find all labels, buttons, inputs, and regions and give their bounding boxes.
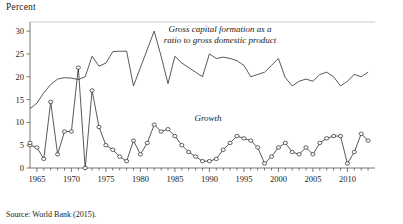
x-axis-tick-label: 1990	[194, 174, 224, 184]
x-axis-tick-label: 2000	[263, 174, 293, 184]
y-axis-tick-label: 20	[6, 72, 24, 82]
annotation-gcf: Gross capital formation as a ratio to gr…	[140, 24, 300, 46]
annotation-gcf-line2: ratio to gross domestic product	[140, 35, 300, 46]
y-axis-tick-label: 0	[6, 163, 24, 173]
annotation-growth: Growth	[178, 113, 238, 124]
figure-container: Percent Gross capital formation as a rat…	[0, 0, 403, 224]
y-axis-tick-label: 5	[6, 140, 24, 150]
source-note: Source: World Bank (2015).	[6, 210, 96, 219]
x-axis-tick-label: 1980	[125, 174, 155, 184]
y-axis-tick-label: 10	[6, 117, 24, 127]
y-axis-tick-label: 25	[6, 49, 24, 59]
y-axis-tick-label: 30	[6, 26, 24, 36]
x-axis-tick-label: 1965	[22, 174, 52, 184]
x-axis-tick-label: 1985	[160, 174, 190, 184]
y-axis-unit-label: Percent	[6, 2, 36, 12]
y-axis-tick-label: 15	[6, 95, 24, 105]
x-axis-tick-label: 1975	[91, 174, 121, 184]
x-axis-tick-label: 2005	[298, 174, 328, 184]
x-axis-tick-label: 2010	[332, 174, 362, 184]
x-axis-tick-label: 1995	[229, 174, 259, 184]
annotation-gcf-line1: Gross capital formation as a	[140, 24, 300, 35]
x-axis-tick-label: 1970	[56, 174, 86, 184]
